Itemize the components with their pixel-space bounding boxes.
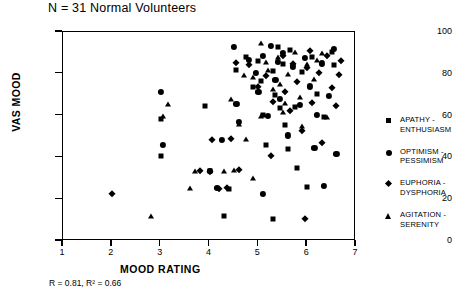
- x-tick-mark: [305, 240, 306, 246]
- data-point: [250, 74, 256, 79]
- data-point: [299, 124, 305, 129]
- data-point: [333, 151, 339, 157]
- data-point: [316, 69, 324, 77]
- data-point: [108, 190, 116, 198]
- legend-item[interactable]: EUPHORIA -DYSPHORIA: [384, 178, 461, 197]
- y-tick-mark: [55, 198, 62, 199]
- legend-item-label: APATHY -ENTHUSIASM: [400, 115, 461, 134]
- legend-item-label: EUPHORIA -DYSPHORIA: [400, 178, 461, 197]
- x-tick-mark: [159, 240, 160, 246]
- data-point: [219, 137, 225, 143]
- data-point: [318, 139, 326, 147]
- data-point: [192, 168, 198, 173]
- legend-item-label: OPTIMISM -PESSIMISM: [400, 147, 461, 166]
- square-marker-icon: [386, 118, 391, 123]
- triangle-marker-icon: [385, 213, 391, 219]
- data-point: [294, 78, 302, 86]
- data-point: [280, 62, 285, 67]
- data-point: [160, 142, 166, 148]
- data-point: [331, 46, 337, 52]
- data-point: [260, 191, 266, 197]
- data-point: [280, 110, 286, 115]
- data-point: [324, 114, 330, 119]
- y-tick-label: 80: [411, 68, 461, 78]
- data-point: [158, 154, 163, 159]
- data-point: [208, 136, 216, 144]
- data-point: [241, 72, 247, 77]
- data-point: [270, 68, 275, 73]
- data-point: [297, 94, 303, 99]
- data-point: [187, 185, 193, 190]
- data-point: [283, 123, 288, 128]
- legend-label-line2: SERENITY: [400, 220, 461, 230]
- legend-label-line1: EUPHORIA -: [400, 178, 461, 188]
- chart-legend: APATHY -ENTHUSIASMOPTIMISM -PESSIMISMEUP…: [384, 115, 461, 242]
- y-tick-mark: [55, 30, 62, 31]
- data-point: [292, 49, 298, 54]
- data-point: [335, 71, 343, 79]
- x-tick-label: 5: [245, 247, 269, 257]
- data-point: [243, 136, 249, 141]
- data-point: [285, 71, 291, 76]
- x-tick-label: 3: [148, 247, 172, 257]
- legend-item[interactable]: OPTIMISM -PESSIMISM: [384, 147, 461, 166]
- scatter-chart-figure: N = 31 Normal Volunteers VAS MOOD 020406…: [0, 0, 461, 299]
- data-point: [319, 50, 325, 55]
- data-point: [222, 213, 227, 218]
- data-point: [338, 57, 346, 65]
- correlation-annotation: R = 0.81, R² = 0.66: [49, 278, 121, 288]
- data-point: [269, 98, 277, 106]
- data-point: [297, 102, 303, 108]
- x-tick-label: 4: [197, 247, 221, 257]
- data-point: [245, 62, 253, 70]
- data-point: [250, 176, 256, 181]
- legend-label-line1: AGITATION -: [400, 210, 461, 220]
- x-tick-mark: [354, 240, 355, 246]
- x-tick-label: 1: [50, 247, 74, 257]
- data-point: [295, 165, 300, 170]
- data-point: [165, 102, 171, 107]
- data-point: [263, 60, 269, 65]
- legend-item-label: AGITATION -SERENITY: [400, 210, 461, 229]
- data-point: [267, 42, 273, 48]
- x-tick-mark: [61, 240, 62, 246]
- data-point: [256, 59, 261, 64]
- legend-label-line1: OPTIMISM -: [400, 147, 461, 157]
- data-point: [258, 41, 264, 46]
- data-point: [328, 85, 336, 93]
- data-point: [258, 79, 263, 84]
- data-point: [311, 77, 317, 82]
- data-point: [282, 101, 288, 106]
- data-point: [285, 132, 291, 138]
- data-point: [301, 215, 309, 223]
- data-point: [307, 83, 313, 89]
- y-tick-mark: [55, 114, 62, 115]
- data-point: [231, 44, 237, 50]
- data-point: [314, 58, 320, 63]
- data-point: [321, 183, 327, 189]
- legend-label-line2: DYSPHORIA: [400, 188, 461, 198]
- data-point: [148, 213, 154, 218]
- x-tick-mark: [257, 240, 258, 246]
- data-point: [281, 88, 289, 96]
- data-points-layer: [63, 32, 354, 239]
- y-axis-label: VAS MOOD: [10, 57, 22, 147]
- x-tick-mark: [110, 240, 111, 246]
- data-point: [265, 67, 271, 72]
- legend-item[interactable]: APATHY -ENTHUSIASM: [384, 115, 461, 134]
- data-point: [270, 87, 276, 92]
- data-point: [233, 101, 239, 107]
- data-point: [228, 135, 236, 143]
- data-point: [277, 82, 283, 87]
- y-tick-mark: [55, 72, 62, 73]
- data-point: [263, 142, 268, 147]
- data-point: [234, 67, 239, 72]
- plot-area: [62, 31, 355, 240]
- data-point: [302, 55, 308, 61]
- y-tick-label: 100: [411, 26, 461, 36]
- data-point: [305, 184, 310, 189]
- data-point: [265, 113, 271, 119]
- data-point: [228, 96, 234, 101]
- data-point: [258, 113, 264, 118]
- legend-item[interactable]: AGITATION -SERENITY: [384, 210, 461, 229]
